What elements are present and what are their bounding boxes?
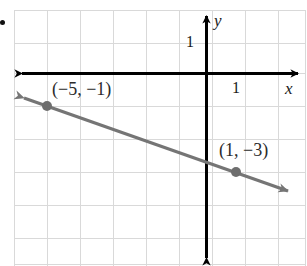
point-label-minus5-minus1: (−5, −1) <box>52 80 111 98</box>
point-label-1-minus3: (1, −3) <box>219 141 268 159</box>
coordinate-plane-figure: y x 1 1 (−5, −1) (1, −3) <box>0 0 307 266</box>
x-axis-label: x <box>285 80 293 97</box>
graph-canvas <box>0 0 307 266</box>
grid-lines-vertical <box>15 10 306 266</box>
data-point-right <box>231 167 241 177</box>
x-axis-tick-label-1: 1 <box>232 80 240 96</box>
grid-lines-horizontal <box>14 11 306 265</box>
y-axis-tick-label-1: 1 <box>186 34 194 50</box>
y-axis-label: y <box>214 12 222 29</box>
data-point-left <box>42 101 52 111</box>
